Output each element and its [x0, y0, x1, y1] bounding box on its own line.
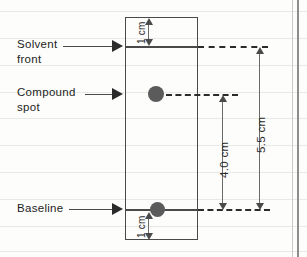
solvent-travel-arrow-down-icon — [256, 203, 264, 210]
paper-rule-line — [0, 11, 307, 12]
solvent-front-label-line2: front — [17, 53, 42, 65]
top-margin-dim-line — [148, 24, 149, 40]
spot-travel-arrow-up-icon — [219, 95, 227, 102]
baseline-label-line1: Baseline — [17, 202, 64, 214]
solvent-front-line — [125, 46, 198, 48]
page-edge-faint-line — [292, 0, 293, 257]
compound-spot-arrow-icon — [112, 88, 123, 100]
solvent-front-leader-line — [63, 46, 113, 47]
baseline-leader-line — [69, 209, 113, 210]
compound-spot-label-line2: spot — [17, 101, 40, 113]
compound-spot-label-line1: Compound — [17, 86, 76, 98]
page-edge-line — [297, 0, 299, 257]
compound-spot-dashed-extension — [166, 94, 238, 96]
top-margin-dim-text: 1 cm — [136, 22, 147, 44]
compound-spot-marker — [148, 86, 164, 102]
solvent-travel-arrow-up-icon — [256, 47, 264, 54]
compound-spot-leader-line — [85, 94, 113, 95]
spot-travel-dim-text: 4.0 cm — [218, 142, 230, 178]
solvent-travel-dim-text: 5.5 cm — [255, 117, 267, 153]
solvent-front-arrow-icon — [112, 40, 123, 52]
paper-rule-line — [0, 251, 307, 252]
spot-travel-arrow-down-icon — [219, 203, 227, 210]
solvent-front-label-line1: Solvent — [17, 38, 57, 50]
bottom-margin-dim-text: 1 cm — [136, 216, 147, 238]
tlc-diagram-canvas: Solvent front Compound spot Baseline 1 c… — [0, 0, 307, 257]
baseline-arrow-icon — [112, 203, 123, 215]
bottom-margin-dim-line — [148, 218, 149, 234]
